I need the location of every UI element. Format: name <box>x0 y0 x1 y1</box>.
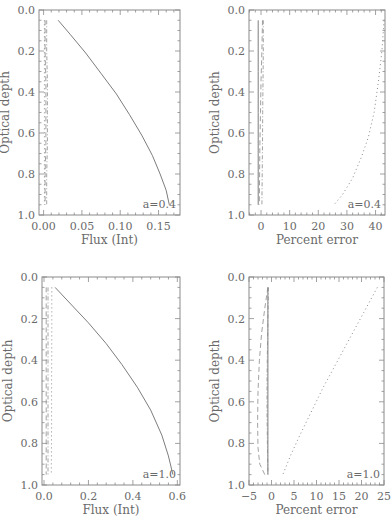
y-axis-label: Optical depth <box>1 339 15 422</box>
x-tick-label: 10 <box>283 220 297 233</box>
chart-canvas: Optical depth Flux (Int) a=0.4 0.000.050… <box>0 0 392 525</box>
series-dotted-line <box>51 287 52 474</box>
y-tick-label: 0.2 <box>21 313 39 326</box>
y-tick-label: 0.0 <box>21 271 39 284</box>
y-tick-label: 0.2 <box>228 45 246 58</box>
series-dotted-line <box>283 287 378 474</box>
x-tick-label: 0.00 <box>31 220 56 233</box>
panel-top-left-flux-a04: Optical depth Flux (Int) a=0.4 0.000.050… <box>0 4 180 247</box>
y-tick-label: 0.8 <box>18 168 36 181</box>
series-dashed-line <box>258 287 268 474</box>
y-axis-label: Optical depth <box>208 339 222 422</box>
y-tick-label: 0.2 <box>18 45 36 58</box>
x-axis-label: Percent error <box>275 503 357 517</box>
annotation-label: a=0.4 <box>348 198 381 211</box>
plot-frame <box>39 10 180 215</box>
plot-frame <box>42 277 180 485</box>
y-tick-label: 1.0 <box>228 209 246 222</box>
x-tick-label: 10 <box>310 490 324 503</box>
series-solid-line <box>55 287 173 474</box>
x-tick-label: 0.05 <box>70 220 95 233</box>
x-tick-label: 5 <box>291 490 298 503</box>
x-tick-label: 30 <box>340 220 354 233</box>
y-tick-label: 0.6 <box>21 396 39 409</box>
y-tick-label: 0.6 <box>228 127 246 140</box>
x-tick-label: 20 <box>311 220 325 233</box>
x-tick-label: 15 <box>332 490 346 503</box>
panel-bottom-left-flux-a10: Optical depth Flux (Int) a=1.0 0.00.20.4… <box>1 271 186 517</box>
series-dotted-line <box>334 20 384 205</box>
x-tick-label: 0.4 <box>124 490 142 503</box>
y-tick-label: 0.6 <box>228 396 246 409</box>
x-tick-label: 0.2 <box>80 490 98 503</box>
y-tick-label: 0.8 <box>228 168 246 181</box>
series-dash-dot-line <box>47 20 48 205</box>
annotation-label: a=1.0 <box>347 468 380 481</box>
x-tick-label: 0 <box>268 490 275 503</box>
y-tick-label: 1.0 <box>21 479 39 492</box>
plot-frame <box>249 10 385 215</box>
y-tick-label: 0.0 <box>228 4 246 17</box>
y-tick-label: 0.4 <box>228 354 246 367</box>
x-axis-label: Percent error <box>276 233 358 247</box>
x-tick-label: 0 <box>258 220 265 233</box>
annotation-label: a=1.0 <box>143 468 176 481</box>
y-tick-label: 1.0 <box>228 479 246 492</box>
panel-bottom-right-error-a10: Optical depth Percent error a=1.0 −50510… <box>208 271 391 517</box>
y-axis-label: Optical depth <box>0 71 12 154</box>
series-solid-line <box>58 20 169 205</box>
x-tick-label: 0.6 <box>169 490 187 503</box>
y-tick-label: 0.8 <box>21 437 39 450</box>
y-tick-label: 0.4 <box>228 86 246 99</box>
y-tick-label: 0.0 <box>228 271 246 284</box>
x-tick-label: 0.10 <box>108 220 133 233</box>
figure: Optical depth Flux (Int) a=0.4 0.000.050… <box>0 0 392 525</box>
y-tick-label: 0.4 <box>18 86 36 99</box>
y-axis-label: Optical depth <box>208 71 222 154</box>
y-tick-label: 0.4 <box>21 354 39 367</box>
x-tick-label: 0.15 <box>146 220 171 233</box>
x-tick-label: 20 <box>355 490 369 503</box>
y-tick-label: 0.6 <box>18 127 36 140</box>
plot-frame <box>249 277 384 485</box>
y-tick-label: 0.8 <box>228 437 246 450</box>
x-axis-label: Flux (Int) <box>81 233 138 247</box>
y-tick-label: 1.0 <box>18 209 36 222</box>
panel-top-right-error-a04: Optical depth Percent error a=0.4 010203… <box>208 4 385 247</box>
x-tick-label: 25 <box>377 490 391 503</box>
y-tick-label: 0.2 <box>228 313 246 326</box>
annotation-label: a=0.4 <box>143 198 176 211</box>
series-dashed-line <box>45 20 46 205</box>
x-axis-label: Flux (Int) <box>82 503 139 517</box>
y-tick-label: 0.0 <box>18 4 36 17</box>
x-tick-label: 40 <box>369 220 383 233</box>
